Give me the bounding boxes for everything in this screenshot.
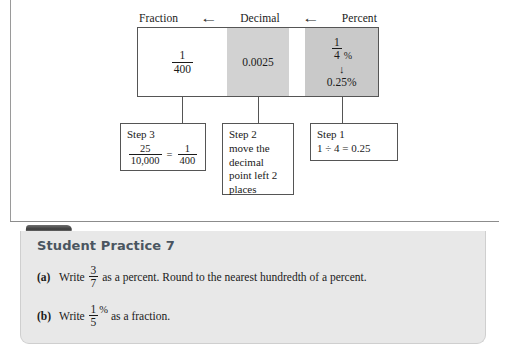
step-3-right-fraction: 1 400 — [178, 143, 198, 166]
step-2-body: move the decimal point left 2 places — [229, 142, 287, 197]
practice-item-b-text: Write 1 5 % as a fraction. — [59, 303, 170, 328]
practice-item-a-prefix: Write — [59, 271, 88, 283]
conversion-diagram: Fraction ← Decimal ← Percent 1 400 0.002… — [137, 12, 379, 97]
practice-item-a-numerator: 3 — [89, 264, 99, 276]
practice-item-b-percent-sign: % — [99, 303, 108, 315]
step-2-label: Step 2 — [229, 128, 287, 142]
percent-fraction-denominator: 4 — [332, 48, 342, 61]
practice-item-a-denominator: 7 — [89, 276, 99, 289]
step-3-equals: = — [167, 148, 173, 161]
header-decimal: Decimal — [240, 12, 280, 24]
practice-item-b-marker: (b) — [37, 310, 59, 322]
practice-item-a-fraction: 3 7 — [89, 264, 99, 289]
step-2-box: Step 2 move the decimal point left 2 pla… — [222, 123, 294, 195]
step-3-box: Step 3 25 10,000 = 1 400 — [120, 123, 206, 171]
practice-title: Student Practice 7 — [37, 238, 469, 253]
page-left-rule — [10, 0, 11, 222]
connector-step3 — [182, 97, 183, 123]
step-1-equation: 1 ÷ 4 = 0.25 — [317, 142, 391, 156]
header-fraction: Fraction — [139, 12, 178, 24]
header-percent: Percent — [342, 12, 377, 24]
practice-item-b-numerator: 1 — [89, 303, 99, 315]
diagram-header-row: Fraction ← Decimal ← Percent — [137, 12, 379, 27]
step-3-right-numerator: 1 — [183, 143, 192, 154]
cell-percent-value: 1 4 % ↓ 0.25% — [305, 28, 378, 96]
practice-item-a-marker: (a) — [37, 271, 59, 283]
step-3-left-numerator: 25 — [138, 143, 153, 154]
practice-item-b-fraction: 1 5 — [89, 303, 99, 328]
step-3-right-denominator: 400 — [178, 154, 198, 166]
percent-decimal-value: 0.25% — [327, 76, 357, 88]
fraction-one-four-hundredths: 1 400 — [172, 49, 193, 74]
arrow-left-icon-1: ← — [200, 12, 218, 24]
practice-item-b: (b) Write 1 5 % as a fraction. — [37, 303, 469, 328]
arrow-left-icon-2: ← — [302, 12, 320, 24]
practice-item-a-suffix: as a percent. Round to the nearest hundr… — [99, 271, 366, 283]
cell-decimal-value: 0.0025 — [227, 28, 290, 96]
percent-sign: % — [344, 50, 352, 62]
step-3-left-fraction: 25 10,000 — [129, 143, 162, 166]
step-3-equation: 25 10,000 = 1 400 — [127, 143, 199, 166]
arrow-down-icon: ↓ — [339, 63, 345, 75]
step-1-box: Step 1 1 ÷ 4 = 0.25 — [310, 123, 398, 161]
practice-item-a-text: Write 3 7 as a percent. Round to the nea… — [59, 264, 367, 289]
practice-item-a: (a) Write 3 7 as a percent. Round to the… — [37, 264, 469, 289]
step-1-label: Step 1 — [317, 128, 391, 142]
percent-fraction-group: 1 4 % — [331, 36, 352, 61]
percent-fraction-numerator: 1 — [332, 36, 342, 48]
practice-item-b-prefix: Write — [59, 310, 88, 322]
step-3-label: Step 3 — [127, 128, 199, 142]
connector-step1 — [342, 97, 343, 123]
practice-item-b-denominator: 5 — [89, 315, 99, 328]
percent-fraction: 1 4 — [332, 36, 342, 61]
cell-spacer — [289, 28, 305, 96]
cell-fraction-value: 1 400 — [138, 28, 227, 96]
connector-step2 — [258, 97, 259, 123]
fraction-numerator: 1 — [177, 49, 187, 61]
value-row: 1 400 0.0025 1 4 % ↓ 0.25% — [137, 27, 379, 97]
fraction-denominator: 400 — [172, 62, 193, 75]
section-divider — [10, 221, 499, 222]
connector-lines — [137, 97, 379, 123]
step-3-left-denominator: 10,000 — [129, 154, 162, 166]
practice-item-b-suffix: as a fraction. — [108, 310, 170, 322]
student-practice-panel: Student Practice 7 (a) Write 3 7 as a pe… — [20, 231, 486, 344]
